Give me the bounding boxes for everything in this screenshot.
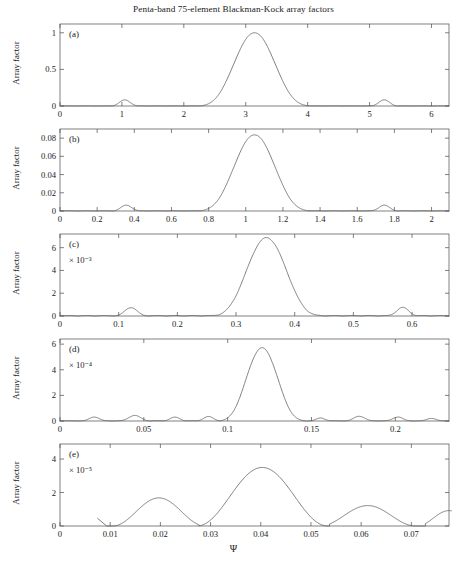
axes-box: [60, 234, 449, 316]
plot-area-b: 00.20.40.60.811.21.41.61.8200.020.040.06…: [0, 123, 467, 228]
y-tick-label: 6: [52, 339, 57, 349]
y-axis-label: Array factor: [11, 33, 21, 93]
exponent-annotation: × 10⁻⁴: [69, 360, 92, 370]
x-tick-label: 0.01: [103, 529, 118, 539]
x-tick-label: 0.6: [166, 214, 177, 224]
panel-label: (b): [69, 134, 80, 144]
panel-a: 012345600.51(a)Array factor: [0, 18, 467, 123]
x-tick-label: 1: [244, 214, 248, 224]
y-axis-label: Array factor: [11, 453, 21, 513]
y-tick-label: 0: [52, 101, 56, 111]
panel-label: (c): [69, 239, 79, 249]
exponent-annotation: × 10⁻⁵: [69, 465, 92, 475]
array-factor-curve: [60, 238, 449, 316]
x-tick-label: 0.05: [303, 529, 318, 539]
x-tick-label: 0.3: [231, 319, 242, 329]
x-tick-label: 0.1: [222, 424, 233, 434]
axes-box: [60, 444, 449, 526]
array-factor-curve: [60, 135, 449, 211]
y-tick-label: 4: [52, 454, 57, 464]
x-tick-label: 0.5: [348, 319, 359, 329]
x-tick-label: 0.4: [289, 319, 300, 329]
y-tick-label: 6: [52, 243, 57, 253]
y-tick-label: 4: [52, 365, 57, 375]
y-tick-label: 0: [52, 416, 56, 426]
panel-label: (a): [69, 29, 79, 39]
x-tick-label: 0.02: [153, 529, 168, 539]
y-tick-label: 0.04: [41, 170, 57, 180]
x-tick-label: 0.4: [129, 214, 140, 224]
x-tick-label: 1.2: [278, 214, 289, 224]
x-tick-label: 0: [58, 529, 62, 539]
y-tick-label: 2: [52, 488, 56, 498]
plot-area-e: 00.010.020.030.040.050.060.07024(e)× 10⁻…: [0, 438, 467, 543]
y-tick-label: 0.02: [41, 188, 56, 198]
x-tick-label: 0.8: [203, 214, 214, 224]
x-tick-label: 0.2: [92, 214, 103, 224]
axes-box: [60, 129, 449, 211]
x-tick-label: 0: [58, 319, 62, 329]
y-tick-label: 0: [52, 311, 56, 321]
axes-box: [60, 339, 449, 421]
panel-b: 00.20.40.60.811.21.41.61.8200.020.040.06…: [0, 123, 467, 228]
panel-c: 00.10.20.30.40.50.60246(c)× 10⁻³Array fa…: [0, 228, 467, 333]
x-axis-label: Ψ: [0, 543, 467, 554]
y-tick-label: 2: [52, 288, 56, 298]
y-tick-label: 0: [52, 206, 56, 216]
plot-area-a: 012345600.51(a): [0, 18, 467, 123]
x-tick-label: 0.2: [172, 319, 183, 329]
x-tick-label: 1.4: [315, 214, 326, 224]
x-tick-label: 1.8: [389, 214, 400, 224]
x-tick-label: 6: [429, 109, 434, 119]
plot-area-d: 00.050.10.150.20246(d)× 10⁻⁴: [0, 333, 467, 438]
x-tick-label: 2: [182, 109, 186, 119]
x-tick-label: 0.2: [390, 424, 401, 434]
y-tick-label: 1: [52, 28, 56, 38]
y-axis-label: Array factor: [11, 243, 21, 303]
array-factor-curve: [98, 467, 452, 526]
x-tick-label: 4: [306, 109, 311, 119]
x-tick-label: 0: [58, 424, 62, 434]
array-factor-curve: [60, 348, 449, 421]
x-tick-label: 0.04: [253, 529, 269, 539]
x-tick-label: 1.6: [352, 214, 363, 224]
plot-area-c: 00.10.20.30.40.50.60246(c)× 10⁻³: [0, 228, 467, 333]
x-tick-label: 0: [58, 214, 62, 224]
x-tick-label: 0.6: [407, 319, 418, 329]
x-tick-label: 0.05: [136, 424, 151, 434]
y-tick-label: 4: [52, 265, 57, 275]
y-tick-label: 2: [52, 390, 56, 400]
x-tick-label: 0.1: [113, 319, 124, 329]
x-tick-label: 3: [244, 109, 248, 119]
y-tick-label: 0.08: [41, 133, 56, 143]
x-tick-label: 0.07: [404, 529, 420, 539]
x-tick-label: 1: [120, 109, 124, 119]
y-tick-label: 0.5: [45, 64, 56, 74]
x-tick-label: 5: [367, 109, 371, 119]
y-axis-label: Array factor: [11, 138, 21, 198]
x-tick-label: 0: [58, 109, 62, 119]
y-tick-label: 0.06: [41, 151, 57, 161]
figure-container: Penta-band 75-element Blackman-Kock arra…: [0, 0, 467, 566]
panel-e: 00.010.020.030.040.050.060.07024(e)× 10⁻…: [0, 438, 467, 543]
panel-label: (d): [69, 344, 80, 354]
y-axis-label: Array factor: [11, 348, 21, 408]
exponent-annotation: × 10⁻³: [69, 255, 92, 265]
x-tick-label: 2: [429, 214, 433, 224]
panel-label: (e): [69, 449, 79, 459]
x-tick-label: 0.03: [203, 529, 218, 539]
panel-d: 00.050.10.150.20246(d)× 10⁻⁴Array factor: [0, 333, 467, 438]
array-factor-curve: [60, 33, 449, 106]
axes-box: [60, 24, 449, 106]
figure-title: Penta-band 75-element Blackman-Kock arra…: [0, 4, 467, 14]
x-tick-label: 0.06: [354, 529, 370, 539]
y-tick-label: 0: [52, 521, 56, 531]
x-tick-label: 0.15: [304, 424, 319, 434]
